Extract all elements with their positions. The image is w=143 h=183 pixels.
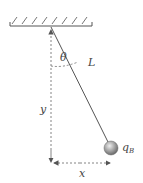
label-y: y xyxy=(40,104,46,115)
label-theta: θ xyxy=(60,52,67,63)
pendulum-diagram: θ L y x qB xyxy=(0,0,143,183)
label-length: L xyxy=(88,57,95,68)
pendulum-string xyxy=(51,27,108,142)
charge-subscript: B xyxy=(129,147,134,155)
label-x: x xyxy=(79,168,85,179)
ceiling xyxy=(10,17,92,26)
diagram-canvas xyxy=(0,0,143,183)
pendulum-ball xyxy=(104,141,118,155)
charge-symbol: q xyxy=(122,141,129,154)
label-charge: qB xyxy=(122,142,134,153)
